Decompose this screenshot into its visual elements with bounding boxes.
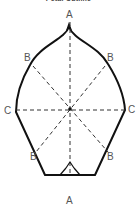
petal-diagram: A B B C C B B A	[0, 0, 137, 206]
label-top-a: A	[66, 9, 73, 20]
label-lower-right-b: B	[107, 151, 114, 162]
label-right-c: C	[128, 104, 135, 115]
label-upper-right-b: B	[107, 52, 114, 63]
center-point	[68, 107, 72, 111]
label-bottom-a: A	[66, 195, 73, 206]
label-left-c: C	[4, 105, 11, 116]
label-upper-left-b: B	[24, 52, 31, 63]
label-lower-left-b: B	[30, 151, 37, 162]
